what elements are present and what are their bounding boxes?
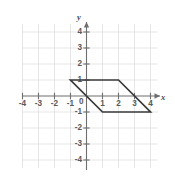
x-tick-label: -4 <box>19 99 27 108</box>
y-tick-label: -2 <box>75 123 83 132</box>
x-tick-label: -2 <box>51 99 59 108</box>
y-tick-label: 4 <box>77 27 82 36</box>
x-axis-arrowhead-icon <box>155 93 161 98</box>
y-tick-label: 2 <box>77 59 82 68</box>
y-tick-label: 3 <box>77 43 82 52</box>
x-tick-label: 1 <box>100 99 105 108</box>
x-tick-label: 3 <box>132 99 137 108</box>
y-axis-label: y <box>76 12 81 22</box>
origin-label: 0 <box>79 97 84 106</box>
y-tick-label: -1 <box>75 107 83 116</box>
x-tick-label: 2 <box>116 99 121 108</box>
y-axis-arrowhead-icon <box>84 22 89 28</box>
x-tick-label: -3 <box>35 99 43 108</box>
x-axis-label: x <box>160 92 166 102</box>
x-axis-group <box>23 93 161 99</box>
coordinate-plane-svg: -4 -3 -2 -1 1 2 3 4 4 3 2 1 -1 -2 -3 -4 … <box>0 0 175 182</box>
coordinate-plane-figure: -4 -3 -2 -1 1 2 3 4 4 3 2 1 -1 -2 -3 -4 … <box>0 0 175 182</box>
x-tick-label: 4 <box>148 99 153 108</box>
y-tick-label: -4 <box>75 155 83 164</box>
x-tick-label: -1 <box>67 99 75 108</box>
y-tick-label: -3 <box>75 139 83 148</box>
